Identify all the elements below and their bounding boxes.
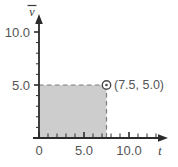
point-coordinate-annotation: (7.5, 5.0) [114,78,164,92]
x-tick-label-5: 5.0 [75,143,93,158]
chart-svg: v t 10.0 5.0 0 5.0 10.0 (7.5, 5.0) [0,0,178,167]
y-axis-label: v [29,5,35,19]
velocity-time-graph-figure: v t 10.0 5.0 0 5.0 10.0 (7.5, 5.0) [0,0,178,167]
shaded-area-region [39,85,107,138]
y-tick-label-10: 10.0 [5,25,30,40]
y-tick-label-5: 5.0 [12,78,30,93]
x-tick-label-0: 0 [35,143,42,158]
data-point-center-dot-icon [105,84,108,87]
x-tick-label-10: 10.0 [116,143,141,158]
